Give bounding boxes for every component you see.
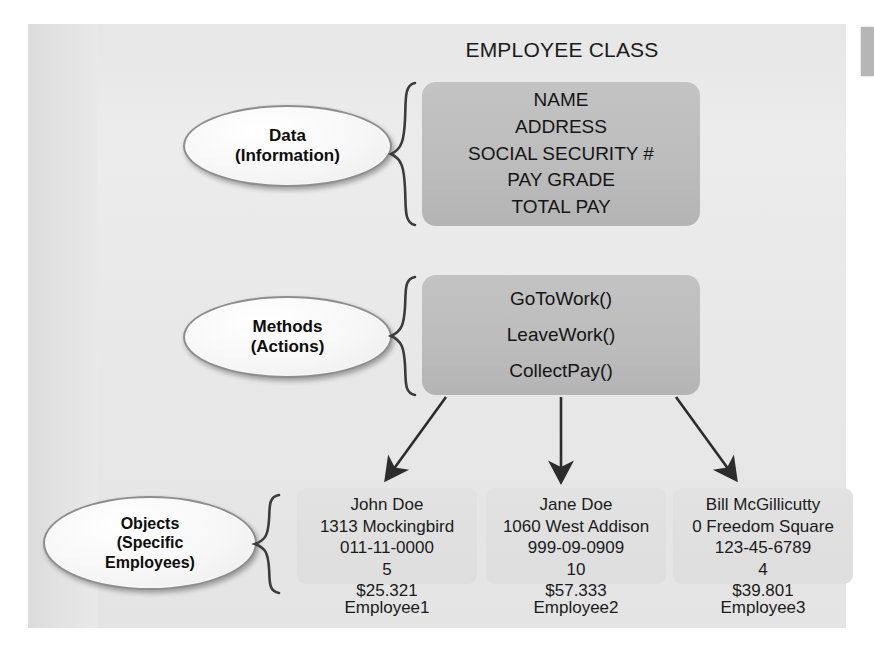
callout-objects-line2: (Specific [117, 533, 184, 552]
object-pay-grade: 10 [486, 559, 666, 581]
object-pay-grade: 5 [297, 559, 477, 581]
method-member-2: CollectPay() [509, 353, 612, 389]
methods-members-box: GoToWork() LeaveWork() CollectPay() [422, 275, 700, 395]
object-name: Jane Doe [486, 494, 666, 516]
object-label: Employee2 [486, 598, 666, 618]
callout-objects-line1: Objects [121, 514, 180, 533]
method-member-0: GoToWork() [510, 281, 612, 317]
page-title: EMPLOYEE CLASS [422, 38, 702, 62]
data-member-1: ADDRESS [515, 114, 607, 141]
object-card: Jane Doe 1060 West Addison 999-09-0909 1… [486, 488, 666, 584]
object-card: John Doe 1313 Mockingbird 011-11-0000 5 … [297, 488, 477, 584]
object-address: 1060 West Addison [486, 516, 666, 538]
object-card: Bill McGillicutty 0 Freedom Square 123-4… [673, 488, 853, 584]
object-ssn: 011-11-0000 [297, 537, 477, 559]
object-ssn: 999-09-0909 [486, 537, 666, 559]
data-member-2: SOCIAL SECURITY # [468, 141, 654, 168]
method-member-1: LeaveWork() [507, 317, 615, 353]
object-address: 0 Freedom Square [673, 516, 853, 538]
curly-brace-icon-objects [249, 492, 283, 596]
diagram-page: EMPLOYEE CLASS Data (Information) NAME A… [0, 0, 874, 660]
object-label: Employee3 [673, 598, 853, 618]
data-member-4: TOTAL PAY [511, 194, 610, 221]
page-edge-tab [861, 27, 874, 76]
callout-data-line2: (Information) [235, 146, 340, 166]
data-member-3: PAY GRADE [507, 167, 615, 194]
data-member-0: NAME [534, 87, 589, 114]
callout-methods: Methods (Actions) [183, 296, 392, 378]
object-pay-grade: 4 [673, 559, 853, 581]
object-name: Bill McGillicutty [673, 494, 853, 516]
object-name: John Doe [297, 494, 477, 516]
data-members-box: NAME ADDRESS SOCIAL SECURITY # PAY GRADE… [422, 82, 700, 226]
callout-methods-line1: Methods [253, 317, 323, 337]
curly-brace-icon-methods [385, 274, 419, 398]
callout-methods-line2: (Actions) [251, 337, 325, 357]
object-label: Employee1 [297, 598, 477, 618]
object-address: 1313 Mockingbird [297, 516, 477, 538]
object-ssn: 123-45-6789 [673, 537, 853, 559]
callout-data: Data (Information) [183, 105, 392, 187]
callout-objects-line3: Employees) [105, 553, 195, 572]
callout-objects: Objects (Specific Employees) [43, 496, 257, 590]
callout-data-line1: Data [269, 126, 306, 146]
curly-brace-icon-data [385, 80, 419, 228]
